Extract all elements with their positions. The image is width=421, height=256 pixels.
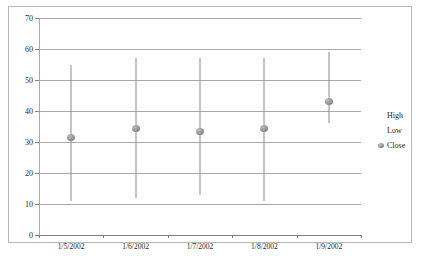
chart-screenshot: 706050403020100 1/5/20021/6/20021/7/2002… — [0, 0, 421, 256]
y-tick-mark-60 — [35, 49, 39, 50]
close-marker — [67, 134, 75, 141]
x-tick-label: 1/6/2002 — [122, 242, 149, 251]
hlc-bar — [71, 65, 72, 201]
plot-area: 706050403020100 1/5/20021/6/20021/7/2002… — [39, 18, 361, 235]
y-tick-label: 30 — [25, 138, 33, 147]
close-marker — [196, 128, 204, 135]
hlc-bar — [328, 52, 329, 123]
x-tick-mark — [232, 235, 233, 238]
hlc-bar — [200, 58, 201, 194]
y-tick-mark-30 — [35, 142, 39, 143]
x-tick-label: 1/7/2002 — [187, 242, 214, 251]
y-tick-label: 10 — [25, 200, 33, 209]
gridline-70 — [39, 18, 361, 19]
close-marker — [260, 125, 268, 132]
x-tick-mark — [39, 235, 40, 238]
legend-item-close[interactable]: Close — [377, 138, 421, 153]
chart-legend: HighLowClose — [377, 108, 421, 153]
x-tick-mark — [361, 235, 362, 238]
x-tick-label: 1/5/2002 — [58, 242, 85, 251]
legend-label: Low — [377, 126, 402, 135]
y-tick-label: 40 — [25, 107, 33, 116]
gridline-10 — [39, 204, 361, 205]
x-tick-mark — [103, 235, 104, 238]
legend-item-high[interactable]: High — [377, 108, 421, 123]
gridline-0 — [39, 235, 361, 236]
y-tick-label: 0 — [29, 231, 33, 240]
y-tick-label: 60 — [25, 45, 33, 54]
x-tick-mark — [297, 235, 298, 238]
legend-marker-icon — [377, 141, 386, 150]
y-tick-label: 70 — [25, 14, 33, 23]
y-tick-mark-20 — [35, 173, 39, 174]
close-marker — [325, 98, 333, 105]
y-tick-mark-10 — [35, 204, 39, 205]
y-tick-mark-40 — [35, 111, 39, 112]
y-tick-mark-70 — [35, 18, 39, 19]
x-tick-label: 1/9/2002 — [315, 242, 342, 251]
chart-frame: 706050403020100 1/5/20021/6/20021/7/2002… — [8, 6, 412, 243]
legend-label: Close — [387, 141, 405, 150]
gridline-60 — [39, 49, 361, 50]
close-marker — [132, 125, 140, 132]
y-tick-mark-50 — [35, 80, 39, 81]
y-axis-line — [39, 18, 40, 235]
x-tick-mark — [168, 235, 169, 238]
y-tick-label: 50 — [25, 76, 33, 85]
y-tick-label: 20 — [25, 169, 33, 178]
legend-label: High — [377, 111, 403, 120]
legend-item-low[interactable]: Low — [377, 123, 421, 138]
x-tick-label: 1/8/2002 — [251, 242, 278, 251]
